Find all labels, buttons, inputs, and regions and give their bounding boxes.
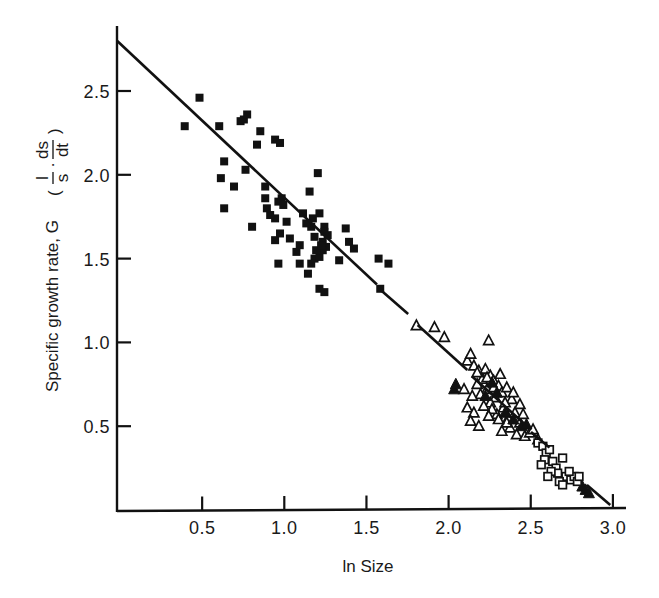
y-axis-title: Specific growth rate, G ( l s · ds dt ) xyxy=(33,128,72,392)
data-point xyxy=(462,402,472,412)
y-tick-label: 2.5 xyxy=(83,82,110,102)
x-axis-ticks: 0.51.01.52.02.53.0 xyxy=(189,494,626,538)
data-point xyxy=(217,174,225,182)
data-point xyxy=(181,122,189,130)
y-axis-formula: ( l s · ds dt ) xyxy=(33,128,72,196)
data-point xyxy=(495,369,505,379)
x-tick-label: 3.0 xyxy=(600,518,627,538)
data-point xyxy=(384,260,392,268)
svg-text:l: l xyxy=(33,176,52,180)
data-point xyxy=(518,409,528,419)
data-point xyxy=(342,224,350,232)
data-point xyxy=(286,234,294,242)
data-point xyxy=(283,218,291,226)
data-point xyxy=(320,288,328,296)
x-tick-label: 2.5 xyxy=(517,518,544,538)
data-point xyxy=(335,256,343,264)
data-point xyxy=(215,122,223,130)
x-tick-label: 2.0 xyxy=(435,518,462,538)
svg-text:dt: dt xyxy=(53,143,72,157)
x-axis-title: ln Size xyxy=(342,557,393,576)
data-point xyxy=(196,94,204,102)
data-point xyxy=(565,468,573,476)
y-axis-title-text: Specific growth rate, G xyxy=(43,220,62,392)
data-point xyxy=(263,204,271,212)
series-open-squares xyxy=(534,439,583,489)
data-point xyxy=(248,223,256,231)
data-point xyxy=(276,139,284,147)
data-point xyxy=(439,332,449,342)
data-point xyxy=(466,349,476,359)
data-point xyxy=(314,169,322,177)
data-point xyxy=(296,241,304,249)
data-point xyxy=(271,236,279,244)
data-point xyxy=(220,157,228,165)
data-point xyxy=(350,245,358,253)
y-tick-label: 0.5 xyxy=(83,417,110,437)
data-point xyxy=(304,270,312,278)
data-point xyxy=(296,260,304,268)
data-point xyxy=(253,141,261,149)
data-point xyxy=(484,335,494,345)
data-point xyxy=(242,166,250,174)
data-point xyxy=(307,260,315,268)
data-point xyxy=(315,209,323,217)
data-point xyxy=(559,481,567,489)
data-point xyxy=(559,454,567,462)
x-tick-label: 1.5 xyxy=(353,518,380,538)
y-tick-label: 1.5 xyxy=(83,250,110,270)
data-point xyxy=(429,322,439,332)
data-point xyxy=(261,194,269,202)
scatter-chart: 0.51.01.52.02.5 0.51.01.52.02.53.0 ln Si… xyxy=(0,0,659,598)
svg-text:(: ( xyxy=(45,190,64,196)
data-point xyxy=(575,473,583,481)
series-filled-squares xyxy=(181,94,393,296)
data-point xyxy=(243,110,251,118)
regression-line xyxy=(117,41,610,505)
data-point xyxy=(274,260,282,268)
data-point xyxy=(279,201,287,209)
data-point xyxy=(450,378,461,389)
data-point xyxy=(375,255,383,263)
data-point xyxy=(256,127,264,135)
x-tick-label: 0.5 xyxy=(189,518,216,538)
x-tick-label: 1.0 xyxy=(271,518,298,538)
y-tick-label: 2.0 xyxy=(83,166,110,186)
data-point xyxy=(220,204,228,212)
data-point xyxy=(502,382,512,392)
data-point xyxy=(537,461,545,469)
data-point xyxy=(544,473,552,481)
svg-text:·: · xyxy=(43,162,62,168)
svg-text:ds: ds xyxy=(33,141,52,159)
data-point xyxy=(306,188,314,196)
data-point xyxy=(311,233,319,241)
svg-text:s: s xyxy=(53,174,72,183)
x-axis-line xyxy=(117,508,626,511)
y-axis-ticks: 0.51.01.52.02.5 xyxy=(83,82,131,437)
y-tick-label: 1.0 xyxy=(83,333,110,353)
data-point xyxy=(230,183,238,191)
svg-text:): ) xyxy=(45,128,64,134)
data-point xyxy=(317,241,325,249)
